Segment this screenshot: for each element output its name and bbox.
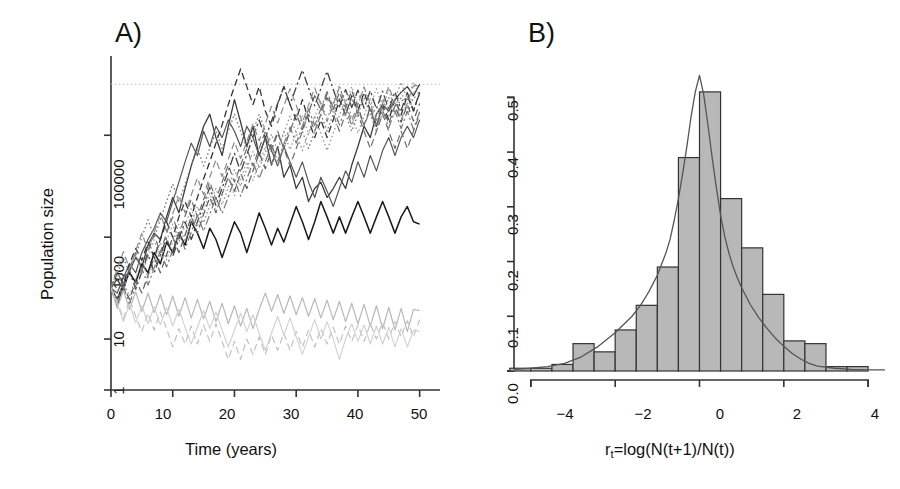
histogram-bar xyxy=(636,305,657,371)
population-trajectory xyxy=(111,288,420,359)
histogram-bar xyxy=(594,352,615,371)
population-trajectory xyxy=(111,70,420,306)
panel-b-plot-area xyxy=(450,0,900,489)
population-trajectory xyxy=(111,120,420,293)
histogram-bar xyxy=(678,158,699,371)
histogram-bar xyxy=(721,199,742,371)
histogram-bar xyxy=(657,267,678,371)
figure-root: A) Population size Time (years) 100000 1… xyxy=(0,0,900,489)
histogram-bar xyxy=(742,248,763,371)
histogram-bar xyxy=(573,344,594,371)
panel-a-plot-area xyxy=(0,0,450,489)
population-trajectory xyxy=(111,202,420,300)
histogram-bar xyxy=(784,341,805,371)
histogram-bar xyxy=(700,92,721,371)
panel-a: A) Population size Time (years) 100000 1… xyxy=(0,0,450,489)
histogram-bar xyxy=(763,294,784,371)
histogram-bar xyxy=(615,330,636,371)
population-trajectory xyxy=(111,69,420,288)
panel-b: B) Density rt=log(N(t+1)/N(t)) 0.5 0.4 0… xyxy=(450,0,900,489)
histogram-bar xyxy=(531,368,552,371)
population-trajectory xyxy=(111,288,420,359)
population-trajectory xyxy=(111,288,420,332)
